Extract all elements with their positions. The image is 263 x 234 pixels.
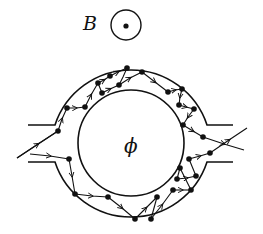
aharonov-bohm-ring-diagram: B ϕ	[0, 0, 263, 234]
field-label: B	[82, 12, 97, 34]
flux-label: ϕ	[124, 134, 138, 158]
field-out-of-page-icon	[111, 10, 141, 40]
